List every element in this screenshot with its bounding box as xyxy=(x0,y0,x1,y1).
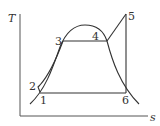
saturation-dome xyxy=(30,25,139,104)
point-label-3: 3 xyxy=(55,35,62,48)
point-label-1: 1 xyxy=(40,94,47,107)
t-axis-label: T xyxy=(8,12,17,25)
process-1-2 xyxy=(38,85,40,92)
process-4-5 xyxy=(107,14,126,41)
ts-diagram: T s 1 2 3 4 5 6 xyxy=(0,0,160,126)
point-label-2: 2 xyxy=(29,80,36,93)
point-label-5: 5 xyxy=(128,10,135,23)
s-axis-label: s xyxy=(150,111,156,124)
point-label-6: 6 xyxy=(122,94,129,107)
point-label-4: 4 xyxy=(92,30,99,43)
